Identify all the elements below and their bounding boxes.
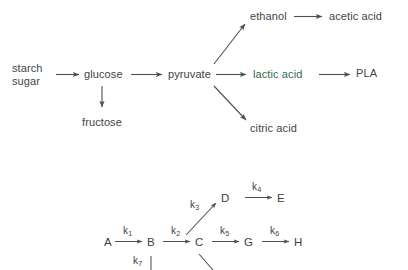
species-c: C xyxy=(195,236,203,248)
rate-k7: k7 xyxy=(133,256,142,266)
node-starch-sugar: starchsugar xyxy=(12,62,43,87)
figure-root: starchsugar glucose fructose pyruvate et… xyxy=(0,0,408,270)
rate-k3: k3 xyxy=(190,200,199,210)
node-citric-acid: citric acid xyxy=(250,123,297,134)
rate-k3-subscript: 3 xyxy=(195,203,199,212)
diagram-arrow-layer xyxy=(0,0,408,270)
rate-k2-subscript: 2 xyxy=(176,229,180,238)
node-sugar-label: sugar xyxy=(12,75,40,87)
species-d: D xyxy=(221,192,229,204)
rate-k6-subscript: 6 xyxy=(275,229,279,238)
arrow-pyruvate-to-ethanol xyxy=(214,24,245,64)
arrow-pyruvate-to-citric-acid xyxy=(214,86,246,120)
node-ethanol: ethanol xyxy=(250,11,287,22)
node-acetic-acid: acetic acid xyxy=(329,11,382,22)
species-b: B xyxy=(147,236,155,248)
species-g: G xyxy=(244,236,253,248)
species-a: A xyxy=(104,236,112,248)
rate-k5: k5 xyxy=(220,226,229,236)
line-c-diagonal-clipped xyxy=(199,254,213,270)
rate-k4: k4 xyxy=(252,182,261,192)
rate-k5-subscript: 5 xyxy=(225,229,229,238)
rate-k4-subscript: 4 xyxy=(257,185,261,194)
rate-k1-subscript: 1 xyxy=(128,229,132,238)
node-pyruvate: pyruvate xyxy=(168,69,211,80)
node-lactic-acid: lactic acid xyxy=(253,69,302,80)
node-fructose: fructose xyxy=(82,117,122,128)
species-h: H xyxy=(294,236,302,248)
rate-k7-subscript: 7 xyxy=(138,259,142,268)
rate-k1: k1 xyxy=(123,226,132,236)
rate-k2: k2 xyxy=(171,226,180,236)
rate-k6: k6 xyxy=(270,226,279,236)
species-e: E xyxy=(277,192,285,204)
node-starch-label: starch xyxy=(12,62,43,74)
node-glucose: glucose xyxy=(84,69,123,80)
node-pla: PLA xyxy=(356,68,377,79)
